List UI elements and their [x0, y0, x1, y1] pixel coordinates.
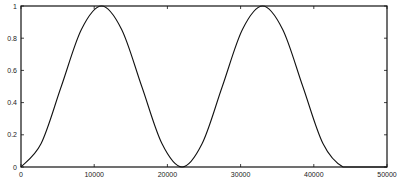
y-tick-label: 0.4	[7, 99, 17, 106]
x-tick-label: 10000	[84, 171, 104, 178]
y-tick-label: 1	[13, 3, 17, 10]
x-tick-label: 20000	[158, 171, 178, 178]
plot-frame	[21, 6, 387, 167]
x-tick-label: 50000	[377, 171, 397, 178]
x-tick-label: 0	[19, 171, 23, 178]
line-chart: 00.20.40.60.81 0100002000030000400005000…	[0, 0, 405, 193]
y-tick-label: 0.8	[7, 35, 17, 42]
x-tick-label: 30000	[231, 171, 251, 178]
x-tick-label: 40000	[304, 171, 324, 178]
y-tick-label: 0.2	[7, 131, 17, 138]
x-axis: 01000020000300004000050000	[19, 6, 397, 178]
data-series-line	[21, 6, 387, 167]
y-tick-label: 0.6	[7, 67, 17, 74]
y-axis: 00.20.40.60.81	[7, 3, 387, 171]
y-tick-label: 0	[13, 164, 17, 171]
